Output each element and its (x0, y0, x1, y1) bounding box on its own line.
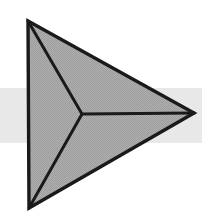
arrow-figure (0, 0, 202, 217)
ridge-right (82, 113, 194, 114)
image-canvas: Geometric Arrow Icon (0, 0, 202, 217)
